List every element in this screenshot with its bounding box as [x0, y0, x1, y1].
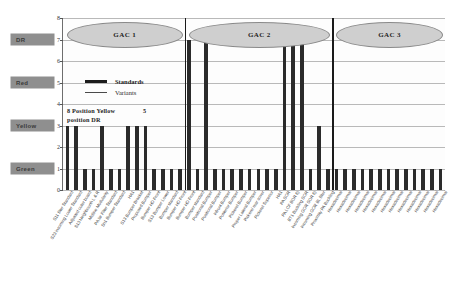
bar: [352, 169, 356, 191]
group-ellipse-2: GAC 2: [189, 22, 331, 48]
legend-label-standards: Standards: [115, 78, 144, 85]
bar: [222, 169, 226, 191]
bar: [92, 169, 96, 191]
bar: [291, 40, 295, 191]
gridline-2: 2: [63, 147, 445, 148]
y-tick-mark-7: [60, 40, 63, 41]
group-separator-1: [185, 18, 187, 190]
bar: [135, 126, 139, 191]
category-label-yellow: Yellow: [11, 120, 54, 131]
bar: [144, 126, 148, 191]
annotation-line-2: position DR: [67, 115, 217, 124]
bar: [126, 126, 130, 191]
y-tick-mark-1: [60, 169, 63, 170]
bar: [395, 169, 399, 191]
category-label-dr: DR: [11, 34, 54, 45]
bar: [100, 126, 104, 191]
bar: [170, 169, 174, 191]
bar: [257, 169, 261, 191]
bar: [404, 169, 408, 191]
bar: [152, 169, 156, 191]
bar: [430, 169, 434, 191]
group-ellipse-3: GAC 3: [336, 22, 443, 48]
y-tick-mark-3: [60, 126, 63, 127]
annotation-text-1: 8 Position Yellow: [67, 107, 115, 114]
bar: [274, 169, 278, 191]
bar: [239, 169, 243, 191]
bar: [196, 169, 200, 191]
gridline-6: 6: [63, 61, 445, 62]
chart-legend: Standards Variants: [85, 76, 144, 98]
y-tick-mark-2: [60, 147, 63, 148]
bar: [248, 169, 252, 191]
category-label-red: Red: [11, 77, 54, 88]
annotation-value-1: 5: [117, 107, 146, 114]
bar: [369, 169, 373, 191]
bar: [83, 169, 87, 191]
bar: [230, 169, 234, 191]
bar: [213, 169, 217, 191]
bar: [109, 169, 113, 191]
bar: [387, 169, 391, 191]
bar: [439, 169, 443, 191]
bar: [118, 169, 122, 191]
legend-label-variants: Variants: [115, 89, 136, 96]
gridline-4: 4: [63, 104, 445, 105]
bar: [161, 169, 165, 191]
chart-canvas: DRRedYellowGreen 012345678 GAC 1GAC 2GAC…: [0, 0, 456, 286]
category-label-green: Green: [11, 163, 54, 174]
bar: [66, 126, 70, 191]
gridline-3: 3: [63, 126, 445, 127]
group-ellipse-1: GAC 1: [67, 22, 183, 48]
plot-area: 012345678 GAC 1GAC 2GAC 3 Standards Vari…: [62, 18, 445, 190]
bar: [74, 126, 78, 191]
bar: [309, 169, 313, 191]
y-tick-mark-6: [60, 61, 63, 62]
y-tick-mark-4: [60, 104, 63, 105]
group-separator-2: [332, 18, 334, 190]
bar: [265, 169, 269, 191]
legend-item-variants: Variants: [85, 87, 144, 98]
x-axis-labels: S11 filter StandardS23 incoming Lower St…: [62, 190, 444, 284]
annotation-line-1: 8 Position Yellow 5: [67, 106, 217, 115]
legend-item-standards: Standards: [85, 76, 144, 87]
bar: [413, 169, 417, 191]
bar: [361, 169, 365, 191]
bar: [343, 169, 347, 191]
bar: [326, 169, 330, 191]
bar: [378, 169, 382, 191]
bar: [178, 169, 182, 191]
bar: [317, 126, 321, 191]
y-tick-mark-8: [60, 18, 63, 19]
bar: [300, 40, 304, 191]
bar: [283, 40, 287, 191]
legend-swatch-variants-icon: [85, 92, 107, 93]
y-tick-mark-5: [60, 83, 63, 84]
bar: [421, 169, 425, 191]
chart-annotation: 8 Position Yellow 5 position DR: [67, 106, 217, 124]
bar: [335, 169, 339, 191]
gridline-8: 8: [63, 18, 445, 19]
legend-swatch-standards-icon: [85, 80, 107, 83]
